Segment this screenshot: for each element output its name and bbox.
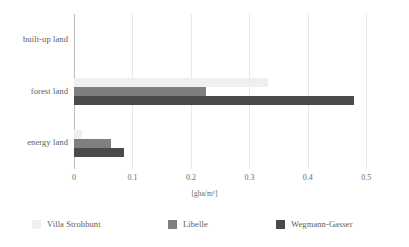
x-axis-tick-label: 0.5 — [361, 173, 371, 182]
y-axis-label: energy land — [27, 137, 68, 147]
x-axis-tick-label: 0.1 — [127, 173, 137, 182]
x-axis-tick-label: 0.4 — [303, 173, 313, 182]
legend: Villa StrohbuntLibelleWegmann-Gasser — [0, 219, 409, 239]
x-axis-tick-label: 0.3 — [244, 173, 254, 182]
x-axis-title: [gha/m²] — [0, 189, 409, 198]
bar — [74, 78, 268, 87]
legend-swatch-icon — [276, 220, 285, 229]
bar — [74, 130, 82, 139]
legend-entry: Libelle — [168, 219, 208, 229]
plot-area — [74, 14, 378, 169]
legend-label: Wegmann-Gasser — [291, 219, 353, 229]
legend-label: Libelle — [183, 219, 208, 229]
y-axis-label: built-up land — [23, 34, 68, 44]
bar-group — [74, 130, 378, 157]
legend-swatch-icon — [168, 220, 177, 229]
legend-entry: Wegmann-Gasser — [276, 219, 353, 229]
bar — [74, 148, 124, 157]
x-axis-tick-label: 0 — [72, 173, 76, 182]
bar-group — [74, 78, 378, 105]
bar — [74, 96, 354, 105]
y-axis-label: forest land — [31, 86, 68, 96]
bar-chart: built-up landforest landenergy land 00.1… — [0, 0, 409, 247]
legend-swatch-icon — [32, 220, 41, 229]
bar — [74, 87, 206, 96]
legend-entry: Villa Strohbunt — [32, 219, 101, 229]
bar-group — [74, 26, 378, 53]
x-axis-tick-label: 0.2 — [186, 173, 196, 182]
bar — [74, 139, 111, 148]
legend-label: Villa Strohbunt — [47, 219, 101, 229]
